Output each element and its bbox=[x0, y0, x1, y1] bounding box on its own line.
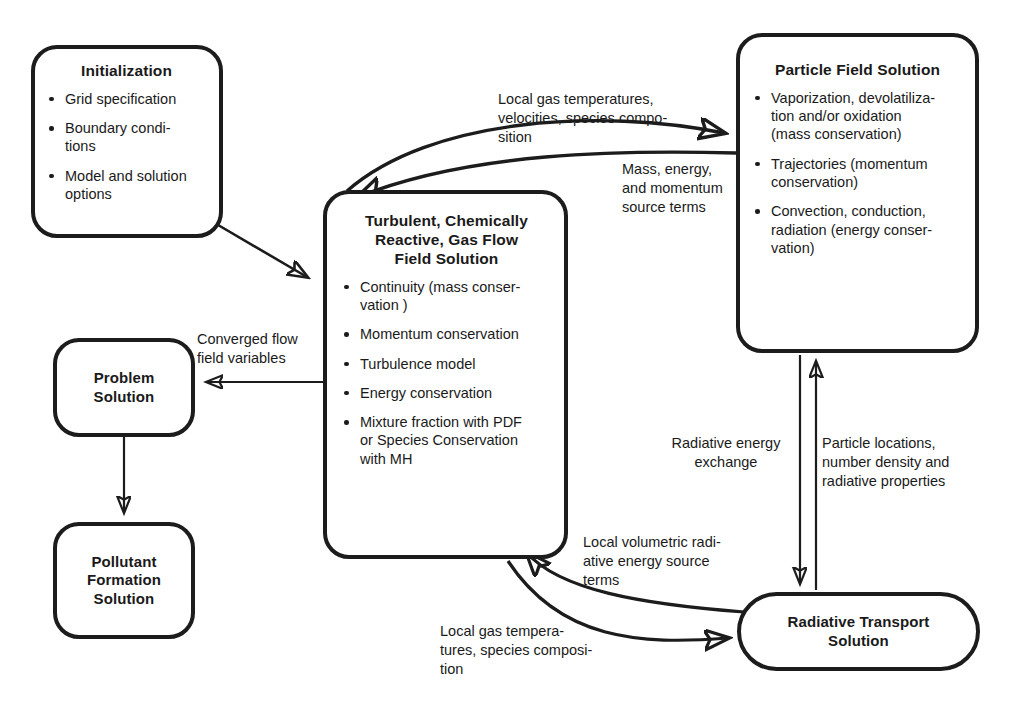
bullet-dot-icon bbox=[344, 285, 349, 290]
list-item: Energy conservation bbox=[343, 384, 550, 402]
bullet-text: Continuity (mass conser- vation ) bbox=[360, 279, 520, 313]
bullet-text: Boundary condi- tions bbox=[65, 120, 171, 154]
list-item: Boundary condi- tions bbox=[48, 119, 205, 156]
node-problem-solution-title: Problem Solution bbox=[94, 369, 155, 406]
node-initialization-title: Initialization bbox=[48, 62, 205, 81]
node-initialization[interactable]: Initialization Grid specification Bounda… bbox=[31, 45, 223, 238]
bullet-text: Vaporization, devolatiliza- tion and/or … bbox=[771, 90, 935, 143]
bullet-dot-icon bbox=[344, 362, 349, 367]
list-item: Model and solution options bbox=[48, 167, 205, 204]
bullet-dot-icon bbox=[344, 391, 349, 396]
bullet-text: Momentum conservation bbox=[360, 326, 519, 342]
list-item: Momentum conservation bbox=[343, 325, 550, 343]
bullet-text: Grid specification bbox=[65, 91, 176, 107]
list-item: Turbulence model bbox=[343, 355, 550, 373]
node-problem-solution[interactable]: Problem Solution bbox=[53, 338, 195, 437]
edge-label-particle-locations: Particle locations, number density and r… bbox=[822, 434, 997, 491]
edge-initialization-to-gasflow bbox=[213, 222, 307, 277]
node-radiative-transport-solution-title: Radiative Transport Solution bbox=[788, 613, 930, 650]
list-item: Trajectories (momentum conservation) bbox=[754, 155, 961, 192]
node-gas-flow-field-solution[interactable]: Turbulent, Chemically Reactive, Gas Flow… bbox=[323, 190, 568, 559]
node-initialization-bullets: Grid specification Boundary condi- tions… bbox=[48, 90, 205, 203]
node-particle-field-solution[interactable]: Particle Field Solution Vaporization, de… bbox=[736, 33, 979, 353]
bullet-text: Model and solution options bbox=[65, 168, 187, 202]
list-item: Mixture fraction with PDF or Species Con… bbox=[343, 413, 550, 468]
node-particle-field-solution-bullets: Vaporization, devolatiliza- tion and/or … bbox=[754, 89, 961, 257]
bullet-dot-icon bbox=[344, 332, 349, 337]
edge-label-local-gas-temperatures-species: Local gas tempera- tures, species compos… bbox=[440, 622, 645, 679]
edge-label-radiative-energy-exchange: Radiative energy exchange bbox=[660, 434, 792, 472]
flowchart-canvas: Initialization Grid specification Bounda… bbox=[0, 0, 1010, 715]
bullet-text: Convection, conduction, radiation (energ… bbox=[771, 203, 932, 256]
edge-label-particle-to-gas: Mass, energy, and momentum source terms bbox=[622, 160, 772, 217]
list-item: Grid specification bbox=[48, 90, 205, 108]
edge-label-gas-to-particle: Local gas temperatures, velocities, spec… bbox=[498, 90, 713, 147]
bullet-text: Trajectories (momentum conservation) bbox=[771, 156, 928, 190]
edge-label-converged-flow-field-variables: Converged flow field variables bbox=[197, 330, 327, 368]
node-radiative-transport-solution[interactable]: Radiative Transport Solution bbox=[737, 592, 980, 671]
node-pollutant-formation-solution-title: Pollutant Formation Solution bbox=[87, 553, 161, 608]
node-gas-flow-field-solution-bullets: Continuity (mass conser- vation ) Moment… bbox=[343, 278, 550, 468]
bullet-text: Turbulence model bbox=[360, 356, 476, 372]
bullet-dot-icon bbox=[49, 126, 54, 131]
list-item: Vaporization, devolatiliza- tion and/or … bbox=[754, 89, 961, 144]
node-pollutant-formation-solution[interactable]: Pollutant Formation Solution bbox=[53, 522, 195, 639]
list-item: Convection, conduction, radiation (energ… bbox=[754, 202, 961, 257]
bullet-dot-icon bbox=[344, 420, 349, 425]
edge-label-local-volumetric-radiative-source: Local volumetric radi- ative energy sour… bbox=[583, 533, 751, 590]
bullet-text: Mixture fraction with PDF or Species Con… bbox=[360, 414, 522, 467]
bullet-text: Energy conservation bbox=[360, 385, 492, 401]
list-item: Continuity (mass conser- vation ) bbox=[343, 278, 550, 315]
node-particle-field-solution-title: Particle Field Solution bbox=[754, 61, 961, 80]
bullet-dot-icon bbox=[755, 96, 760, 101]
bullet-dot-icon bbox=[49, 174, 54, 179]
node-gas-flow-field-solution-title: Turbulent, Chemically Reactive, Gas Flow… bbox=[343, 212, 550, 269]
bullet-dot-icon bbox=[49, 97, 54, 102]
